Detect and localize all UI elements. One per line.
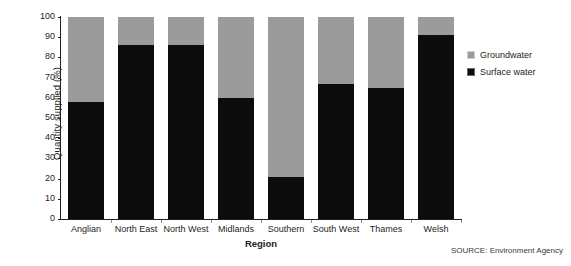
x-axis-category-label: Southern	[261, 224, 311, 234]
surface-water-swatch-icon	[467, 68, 475, 76]
y-tick-label: 100	[40, 11, 55, 21]
legend-item-groundwater: Groundwater	[467, 50, 536, 60]
x-axis-category-label: North West	[161, 224, 211, 234]
y-tick-label: 20	[45, 173, 55, 183]
source-note: SOURCE: Environment Agency	[451, 246, 563, 255]
x-axis-category-label: Welsh	[411, 224, 461, 234]
bar-segment-groundwater[interactable]	[418, 17, 454, 35]
x-axis-category-label: Anglian	[61, 224, 111, 234]
bar-segment-surface-water[interactable]	[318, 84, 354, 219]
x-axis-category-label: South West	[311, 224, 361, 234]
bar-segment-surface-water[interactable]	[68, 102, 104, 219]
bar-group[interactable]	[168, 17, 204, 219]
bar-segment-surface-water[interactable]	[168, 45, 204, 219]
x-tick-mark	[461, 220, 462, 223]
x-tick-mark	[411, 220, 412, 223]
stacked-bar-chart: Quantity supplied (%) 010203040506070809…	[0, 0, 571, 266]
bar-group[interactable]	[118, 17, 154, 219]
bar-group[interactable]	[368, 17, 404, 219]
bar-segment-groundwater[interactable]	[118, 17, 154, 45]
bar-segment-surface-water[interactable]	[418, 35, 454, 219]
x-axis-category-label: North East	[111, 224, 161, 234]
y-tick-label: 10	[45, 193, 55, 203]
y-tick-label: 70	[45, 72, 55, 82]
x-tick-mark	[211, 220, 212, 223]
legend-label-groundwater: Groundwater	[480, 50, 532, 60]
y-tick-label: 50	[45, 112, 55, 122]
bar-segment-groundwater[interactable]	[368, 17, 404, 88]
bar-segment-groundwater[interactable]	[218, 17, 254, 98]
bar-group[interactable]	[218, 17, 254, 219]
bar-segment-surface-water[interactable]	[118, 45, 154, 219]
bar-segment-groundwater[interactable]	[318, 17, 354, 84]
bar-segment-groundwater[interactable]	[268, 17, 304, 177]
y-tick-label: 0	[50, 213, 55, 223]
bar-segment-surface-water[interactable]	[218, 98, 254, 219]
bar-segment-groundwater[interactable]	[68, 17, 104, 102]
y-tick-mark	[58, 219, 61, 220]
bar-group[interactable]	[318, 17, 354, 219]
x-tick-mark	[161, 220, 162, 223]
chart-legend: Groundwater Surface water	[467, 50, 536, 84]
y-tick-label: 30	[45, 152, 55, 162]
x-axis-title: Region	[61, 238, 461, 249]
legend-label-surface-water: Surface water	[480, 67, 536, 77]
y-tick-label: 90	[45, 31, 55, 41]
groundwater-swatch-icon	[467, 51, 475, 59]
x-axis-category-label: Thames	[361, 224, 411, 234]
x-tick-mark	[111, 220, 112, 223]
x-tick-mark	[261, 220, 262, 223]
bar-segment-surface-water[interactable]	[268, 177, 304, 219]
y-tick-label: 40	[45, 132, 55, 142]
bar-group[interactable]	[418, 17, 454, 219]
bar-group[interactable]	[68, 17, 104, 219]
y-tick-label: 80	[45, 51, 55, 61]
bar-segment-groundwater[interactable]	[168, 17, 204, 45]
bar-group[interactable]	[268, 17, 304, 219]
y-tick-label: 60	[45, 92, 55, 102]
bar-segment-surface-water[interactable]	[368, 88, 404, 219]
x-tick-mark	[361, 220, 362, 223]
x-tick-mark	[311, 220, 312, 223]
legend-item-surface-water: Surface water	[467, 67, 536, 77]
plot-area	[61, 17, 461, 219]
x-axis-category-label: Midlands	[211, 224, 261, 234]
